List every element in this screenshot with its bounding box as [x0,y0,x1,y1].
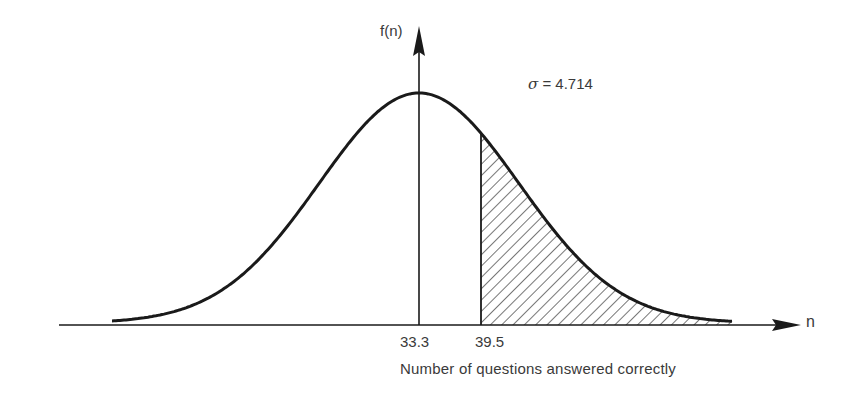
x-axis-arrowhead [772,319,801,331]
x-axis-symbol: n [806,313,815,331]
normal-curve [112,93,732,321]
sigma-symbol: σ [528,75,538,93]
y-axis-label: f(n) [380,22,403,39]
shaded-tail-region [481,133,733,325]
sigma-annotation: σ = 4.714 [528,75,593,93]
x-axis-label: Number of questions answered correctly [400,360,676,377]
tick-label-mean: 33.3 [400,333,429,350]
tick-label-cutoff: 39.5 [475,333,504,350]
y-axis-arrowhead [413,26,425,56]
sigma-value: = 4.714 [542,75,592,92]
